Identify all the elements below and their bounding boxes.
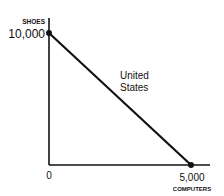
production-possibility-line <box>49 33 191 165</box>
y-tick-10000: 10,000 <box>8 27 45 41</box>
ppf-chart: SHOES 10,000 0 5,000 COMPUTERS United St… <box>0 0 224 196</box>
point-max-shoes <box>46 30 52 36</box>
x-axis-label: COMPUTERS <box>173 186 211 192</box>
series-label-line2: States <box>120 82 148 93</box>
point-max-computers <box>188 162 194 168</box>
x-tick-5000: 5,000 <box>179 172 204 183</box>
series-label-line1: United <box>120 70 149 81</box>
origin-label: 0 <box>46 170 52 181</box>
y-axis-label: SHOES <box>22 18 45 25</box>
